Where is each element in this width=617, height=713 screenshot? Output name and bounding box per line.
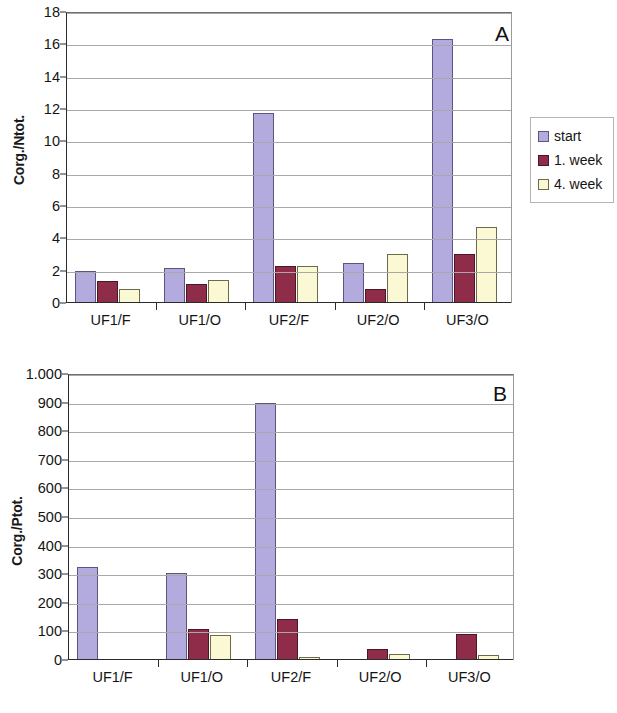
x-axis-line-b: [69, 659, 513, 660]
x-tick-label: UF2/F: [271, 669, 311, 685]
legend-item: 4. week: [538, 172, 607, 196]
y-tick-label: 4: [52, 230, 60, 246]
gridline: [67, 207, 511, 208]
bar: [186, 284, 207, 303]
y-tick-label: 0: [52, 295, 60, 311]
x-tick-label: UF1/O: [178, 312, 221, 328]
x-tick-label: UF1/F: [90, 312, 130, 328]
bar: [387, 254, 408, 303]
x-tick-label: UF2/O: [359, 669, 402, 685]
y-tick-label: 1.000: [26, 366, 62, 382]
y-tick-label: 0: [54, 652, 62, 668]
x-tick-label: UF2/F: [269, 312, 309, 328]
x-tick-mark: [426, 660, 427, 667]
x-tick-label: UF3/O: [446, 312, 489, 328]
gridline: [67, 78, 511, 79]
panel-letter-a: A: [495, 22, 509, 46]
bar: [432, 39, 453, 303]
gridline: [69, 604, 513, 605]
gridline: [67, 13, 511, 14]
y-tick-label: 2: [52, 263, 60, 279]
bar: [97, 281, 118, 303]
x-tick-label: UF1/F: [92, 669, 132, 685]
x-tick-mark: [335, 303, 336, 310]
legend-swatch-icon: [538, 131, 549, 142]
bar: [456, 634, 477, 660]
bar: [255, 403, 276, 660]
gridline: [67, 142, 511, 143]
bar: [343, 263, 364, 303]
bar: [208, 280, 229, 303]
y-tick-label: 500: [38, 509, 62, 525]
x-tick-mark: [245, 303, 246, 310]
y-tick-label: 12: [44, 101, 60, 117]
bar: [166, 573, 187, 660]
gridline: [69, 489, 513, 490]
y-tick-label: 200: [38, 595, 62, 611]
gridline: [69, 575, 513, 576]
x-tick-mark: [158, 660, 159, 667]
x-axis-line-a: [67, 302, 511, 303]
y-tick-label: 6: [52, 198, 60, 214]
x-tick-mark: [247, 660, 248, 667]
gridline: [67, 110, 511, 111]
legend-a: start1. week4. week: [530, 117, 614, 203]
y-tick-label: 900: [38, 395, 62, 411]
legend-label: 4. week: [554, 176, 602, 192]
x-axis-labels-a: UF1/FUF1/OUF2/FUF2/OUF3/O: [66, 312, 512, 334]
bar-group: [424, 13, 513, 303]
y-tick-label: 800: [38, 423, 62, 439]
x-tick-label: UF3/O: [448, 669, 491, 685]
x-tick-mark: [424, 303, 425, 310]
plot-area-b: [68, 374, 514, 660]
bar-groups-a: [67, 13, 511, 303]
gridline: [69, 432, 513, 433]
gridline: [67, 272, 511, 273]
y-tick-label: 100: [38, 623, 62, 639]
bar: [454, 254, 475, 303]
x-tick-mark: [337, 660, 338, 667]
y-tick-label: 18: [44, 4, 60, 20]
x-tick-mark: [156, 303, 157, 310]
chart-panel-a: Corg./Ntot. 024681012141618 UF1/FUF1/OUF…: [0, 0, 617, 356]
legend-item: start: [538, 124, 607, 148]
y-tick-label: 10: [44, 133, 60, 149]
bar: [75, 271, 96, 303]
x-tick-label: UF2/O: [357, 312, 400, 328]
y-tick-label: 400: [38, 538, 62, 554]
legend-item: 1. week: [538, 148, 607, 172]
bar: [77, 567, 98, 660]
plot-area-a: [66, 12, 512, 303]
x-tick-label: UF1/O: [180, 669, 223, 685]
bar: [164, 268, 185, 303]
legend-swatch-icon: [538, 179, 549, 190]
gridline: [69, 461, 513, 462]
gridline: [69, 404, 513, 405]
y-tick-label: 14: [44, 69, 60, 85]
y-tick-label: 8: [52, 166, 60, 182]
gridline: [69, 375, 513, 376]
bar-group: [67, 13, 156, 303]
gridline: [67, 45, 511, 46]
bar: [277, 619, 298, 660]
chart-panel-b: Corg./Ptot. 0100200300400500600700800900…: [0, 356, 617, 712]
bar-group: [245, 13, 334, 303]
bar: [365, 289, 386, 303]
y-tick-label: 700: [38, 452, 62, 468]
y-tick-label: 16: [44, 36, 60, 52]
gridline: [69, 518, 513, 519]
gridline: [67, 175, 511, 176]
panel-letter-b: B: [493, 382, 507, 406]
y-tick-label: 300: [38, 566, 62, 582]
legend-swatch-icon: [538, 155, 549, 166]
x-axis-labels-b: UF1/FUF1/OUF2/FUF2/OUF3/O: [68, 669, 514, 691]
bar: [119, 289, 140, 303]
y-tick-label: 600: [38, 480, 62, 496]
bar-group: [335, 13, 424, 303]
legend-label: start: [554, 128, 581, 144]
legend-label: 1. week: [554, 152, 602, 168]
gridline: [69, 632, 513, 633]
bar-group: [156, 13, 245, 303]
y-axis-ticks-b: 01002003004005006007008009001.000: [0, 374, 68, 660]
y-axis-ticks-a: 024681012141618: [0, 12, 66, 303]
